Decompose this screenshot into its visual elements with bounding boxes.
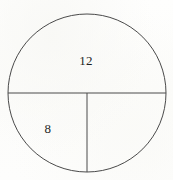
- upper-semicircle-label: 12: [79, 54, 93, 67]
- lower-left-quadrant-label: 8: [45, 122, 52, 135]
- figure-canvas: 12 8: [0, 0, 173, 180]
- circle-diagram: [0, 0, 173, 180]
